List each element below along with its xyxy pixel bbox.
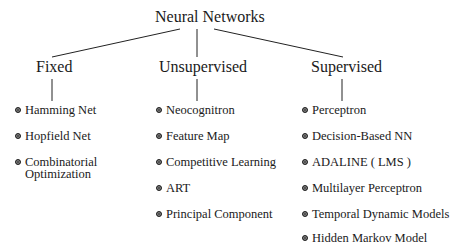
bullet-icon	[302, 133, 308, 139]
list-item-continuation: Optimization	[25, 168, 91, 181]
bullet-icon	[15, 133, 21, 139]
list-item: ADALINE ( LMS )	[302, 156, 411, 169]
root-node: Neural Networks	[155, 8, 265, 26]
edge-root-supervised	[214, 29, 343, 57]
bullet-icon	[156, 185, 162, 191]
list-item: Neocognitron	[156, 104, 235, 117]
list-item: Hopfield Net	[15, 130, 91, 143]
list-item: Decision-Based NN	[302, 130, 412, 143]
category-unsupervised: Unsupervised	[159, 58, 247, 76]
list-item: Temporal Dynamic Models	[302, 208, 449, 221]
bullet-icon	[302, 159, 308, 165]
list-item: ART	[156, 182, 190, 195]
bullet-icon	[302, 107, 308, 113]
bullet-icon	[15, 107, 21, 113]
bullet-icon	[302, 211, 308, 217]
bullet-icon	[302, 235, 308, 241]
category-fixed: Fixed	[36, 58, 72, 76]
bullet-icon	[156, 133, 162, 139]
bullet-icon	[156, 211, 162, 217]
bullet-icon	[302, 185, 308, 191]
list-item: Competitive Learning	[156, 156, 276, 169]
edge-root-fixed	[52, 29, 180, 57]
bullet-icon	[156, 107, 162, 113]
bullet-icon	[15, 159, 21, 165]
list-item: Feature Map	[156, 130, 230, 143]
list-item: Hidden Markov Model	[302, 232, 427, 245]
list-item: Perceptron	[302, 104, 366, 117]
category-supervised: Supervised	[311, 58, 382, 76]
list-item: Hamming Net	[15, 104, 96, 117]
bullet-icon	[156, 159, 162, 165]
list-item: Principal Component	[156, 208, 273, 221]
list-item: Multilayer Perceptron	[302, 182, 422, 195]
